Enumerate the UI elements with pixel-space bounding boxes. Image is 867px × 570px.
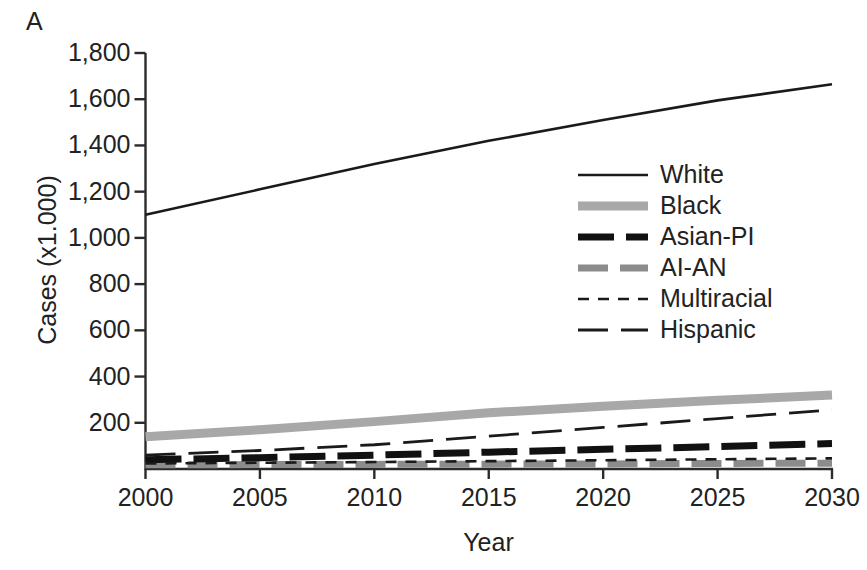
y-tick-label: 1,400 xyxy=(21,132,131,157)
series-line-white xyxy=(146,84,833,215)
x-tick-label: 2010 xyxy=(314,485,434,510)
figure-panel-a: A Cases (x1.000) Year 2004006008001,0001… xyxy=(0,0,867,570)
y-tick-label: 800 xyxy=(21,271,131,296)
legend-label-white: White xyxy=(660,162,724,187)
axis-lines xyxy=(145,53,833,470)
y-tick-label: 200 xyxy=(21,410,131,435)
legend-label-ai-an: AI-AN xyxy=(660,255,727,280)
y-tick-label: 1,200 xyxy=(21,179,131,204)
y-tick-label: 400 xyxy=(21,364,131,389)
legend-line-samples xyxy=(578,175,648,330)
x-tick-label: 2005 xyxy=(200,485,320,510)
y-axis-ticks xyxy=(135,53,146,423)
x-tick-label: 2000 xyxy=(86,485,206,510)
series-line-black xyxy=(146,395,833,437)
x-axis-ticks xyxy=(146,469,833,479)
x-tick-label: 2015 xyxy=(429,485,549,510)
legend-label-multiracial: Multiracial xyxy=(660,286,773,311)
x-tick-label: 2025 xyxy=(658,485,778,510)
data-series-group xyxy=(146,84,833,465)
y-tick-label: 600 xyxy=(21,317,131,342)
x-tick-label: 2020 xyxy=(543,485,663,510)
legend-label-asian-pi: Asian-PI xyxy=(660,224,754,249)
y-tick-label: 1,600 xyxy=(21,86,131,111)
legend-label-hispanic: Hispanic xyxy=(660,317,756,342)
y-tick-label: 1,800 xyxy=(21,40,131,65)
y-tick-label: 1,000 xyxy=(21,225,131,250)
x-tick-label: 2030 xyxy=(772,485,867,510)
legend-label-black: Black xyxy=(660,193,721,218)
